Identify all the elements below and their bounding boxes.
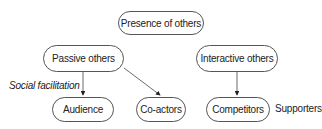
node-interactive-others: Interactive others [196,45,278,72]
node-passive-others: Passive others [43,45,124,72]
label-supporters: Supporters [275,103,322,114]
node-audience: Audience [52,97,114,122]
label-social-facilitation: Social facilitation [9,80,80,91]
node-co-actors: Co-actors [136,97,186,122]
node-competitors: Competitors [206,97,270,122]
edge-passive-to-coactors [124,68,160,95]
node-presence-of-others: Presence of others [118,11,204,35]
